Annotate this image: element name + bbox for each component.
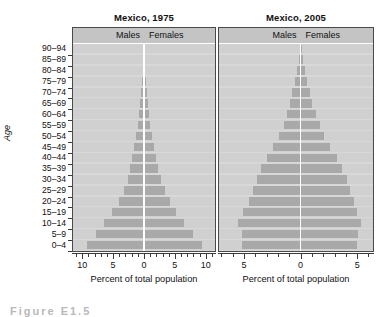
bar-male <box>124 186 144 194</box>
y-axis-label: 50–54 <box>20 131 66 141</box>
bar-male <box>128 175 144 183</box>
zero-axis-line <box>300 44 302 251</box>
bar-male <box>253 186 300 194</box>
x-axis-minor-tick <box>156 254 157 257</box>
pyramid-row <box>219 88 373 99</box>
bar-male <box>257 175 301 183</box>
x-axis-minor-tick <box>312 254 313 257</box>
bar-female <box>301 77 307 85</box>
bar-male <box>279 132 300 140</box>
bar-male <box>238 219 300 227</box>
y-axis-title: Age <box>2 110 12 156</box>
bar-female <box>144 175 161 183</box>
y-axis-label: 90–94 <box>20 43 66 53</box>
bar-female <box>301 241 358 249</box>
chart-panel-mexico-1975: Males Females <box>72 27 216 252</box>
chart-panel-mexico-2005: Males Females <box>218 27 374 252</box>
females-label-2005: Females <box>306 30 341 40</box>
x-axis-minor-tick <box>76 254 77 257</box>
x-axis-major-tick <box>82 254 83 259</box>
bar-female <box>301 88 310 96</box>
bar-female <box>301 230 359 238</box>
panel-title-1975: Mexico, 1975 <box>72 12 216 23</box>
pyramid-row <box>219 186 373 197</box>
x-axis-minor-tick <box>193 254 194 257</box>
bar-male <box>261 164 301 172</box>
bar-female <box>144 230 193 238</box>
x-axis-tick-label: 5 <box>102 260 124 270</box>
bar-male <box>243 208 301 216</box>
x-axis-major-tick <box>175 254 176 259</box>
bar-male <box>242 241 301 249</box>
males-label-1975: Males <box>116 30 140 40</box>
pyramid-row <box>219 164 373 175</box>
pyramid-row <box>219 175 373 186</box>
plot-area-1975 <box>73 44 215 251</box>
x-axis-minor-tick <box>212 254 213 257</box>
x-axis-tick-label: 5 <box>164 260 186 270</box>
figure-caption: Figure E1.5 <box>10 305 91 317</box>
x-axis-tick-label: 10 <box>195 260 217 270</box>
x-axis-major-tick <box>244 254 245 259</box>
x-axis-tick-label: 5 <box>346 260 368 270</box>
bar-male <box>130 164 144 172</box>
bar-female <box>144 197 170 205</box>
x-axis-tick-label: 0 <box>290 260 312 270</box>
x-axis-minor-tick <box>95 254 96 257</box>
x-axis-minor-tick <box>255 254 256 257</box>
bar-female <box>144 164 158 172</box>
y-axis-label: 40–44 <box>20 152 66 162</box>
bar-female <box>301 208 358 216</box>
x-axis-minor-tick <box>278 254 279 257</box>
figure-population-pyramids: Age 0–45–910–1415–1920–2425–2930–3435–39… <box>0 0 376 317</box>
bar-male <box>104 219 144 227</box>
males-label-2005: Males <box>273 30 297 40</box>
bar-female <box>144 154 156 162</box>
x-axis-major-tick <box>206 254 207 259</box>
bar-female <box>144 143 154 151</box>
x-axis-minor-tick <box>150 254 151 257</box>
pyramid-row <box>219 240 373 251</box>
x-axis-minor-tick <box>221 254 222 257</box>
y-axis-label: 55–59 <box>20 120 66 130</box>
bar-male <box>96 230 144 238</box>
bar-female <box>144 219 184 227</box>
bar-male <box>249 197 301 205</box>
pyramid-row <box>219 218 373 229</box>
y-axis-label: 45–49 <box>20 142 66 152</box>
y-axis-label: 10–14 <box>20 218 66 228</box>
y-axis-label: 75–79 <box>20 76 66 86</box>
pyramid-row <box>219 229 373 240</box>
bar-male <box>267 154 301 162</box>
x-axis-tick-label: 10 <box>71 260 93 270</box>
bar-male <box>87 241 144 249</box>
panel-header-strip-2005: Males Females <box>219 28 373 44</box>
x-axis-minor-tick <box>169 254 170 257</box>
x-axis-minor-tick <box>101 254 102 257</box>
bar-male <box>284 121 301 129</box>
bar-female <box>301 121 320 129</box>
pyramid-row <box>219 55 373 66</box>
bar-male <box>273 143 300 151</box>
bar-male <box>112 208 144 216</box>
bar-male <box>287 110 301 118</box>
x-axis-tick-label: 5 <box>233 260 255 270</box>
x-axis-minor-tick <box>163 254 164 257</box>
x-axis-minor-tick <box>200 254 201 257</box>
bar-female <box>144 208 176 216</box>
pyramid-row <box>219 120 373 131</box>
y-axis-label: 20–24 <box>20 196 66 206</box>
y-axis-label: 70–74 <box>20 87 66 97</box>
row-background <box>219 55 373 64</box>
bar-female <box>301 164 343 172</box>
panel-title-2005: Mexico, 2005 <box>218 12 374 23</box>
y-axis-label: 15–19 <box>20 207 66 217</box>
bar-female <box>301 186 351 194</box>
x-axis-line <box>218 253 374 254</box>
bar-female <box>301 143 330 151</box>
pyramid-row <box>219 66 373 77</box>
pyramid-row <box>219 197 373 208</box>
x-axis-major-tick <box>357 254 358 259</box>
x-axis-minor-tick <box>368 254 369 257</box>
x-axis-minor-tick <box>132 254 133 257</box>
